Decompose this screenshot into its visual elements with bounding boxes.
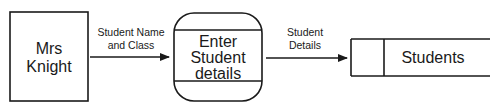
data-flow-student-name-and-class: Student Name and Class (90, 26, 169, 57)
process-label-line-1: Enter (199, 33, 238, 50)
data-store-students: Students (351, 39, 490, 76)
external-entity-label-line-1: Mrs (36, 40, 63, 57)
flow-1-label-line-2: and Class (108, 39, 155, 51)
flow-2-label-line-2: Details (289, 39, 321, 51)
external-entity-mrs-knight: Mrs Knight (10, 12, 88, 101)
data-store-label: Students (401, 49, 464, 66)
flow-2-label-line-1: Student (287, 26, 323, 38)
process-enter-student-details: Enter Student details (174, 13, 262, 101)
data-flow-student-details: Student Details (266, 26, 347, 58)
data-flow-diagram: Mrs Knight Student Name and Class Enter … (0, 0, 499, 107)
external-entity-label-line-2: Knight (26, 58, 72, 75)
process-label-line-3: details (195, 65, 241, 82)
process-label-line-2: Student (190, 49, 246, 66)
flow-1-label-line-1: Student Name (97, 26, 164, 38)
